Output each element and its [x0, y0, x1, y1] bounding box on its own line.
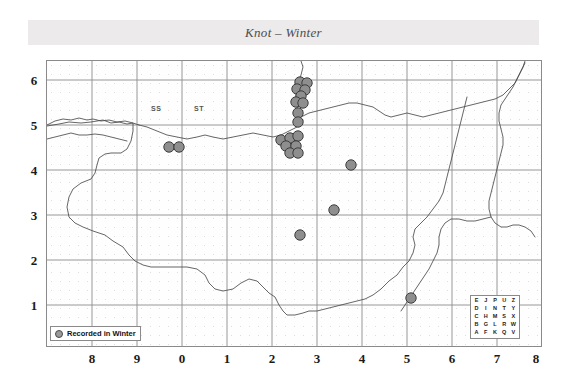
key-letter: M	[490, 313, 499, 321]
y-axis-tick-6: 6	[26, 73, 42, 89]
key-letter: X	[509, 313, 518, 321]
x-axis-tick-1: 9	[129, 351, 145, 367]
record-dot	[298, 98, 308, 108]
key-letter: Q	[500, 329, 509, 337]
record-dot	[329, 205, 339, 215]
grid-square-label-st: ST	[194, 105, 204, 112]
key-letter: D	[472, 305, 481, 313]
title-bar: Knot – Winter	[28, 20, 539, 45]
x-axis-tick-8: 6	[444, 351, 460, 367]
record-dot	[295, 230, 305, 240]
map-canvas	[47, 61, 542, 347]
key-letter: C	[472, 313, 481, 321]
key-letter: N	[490, 305, 499, 313]
key-letter: W	[509, 321, 518, 329]
key-letter: E	[472, 297, 481, 305]
key-letter: K	[490, 329, 499, 337]
key-letter: H	[481, 313, 490, 321]
key-letter: G	[481, 321, 490, 329]
key-letter: V	[509, 329, 518, 337]
key-letter: L	[490, 321, 499, 329]
key-letter: B	[472, 321, 481, 329]
key-letter: U	[500, 297, 509, 305]
x-axis-tick-10: 8	[528, 351, 544, 367]
x-axis-tick-0: 8	[84, 351, 100, 367]
key-letter: I	[481, 305, 490, 313]
map-legend: Recorded in Winter	[50, 326, 141, 341]
key-letter: T	[500, 305, 509, 313]
grid-square-label-ss: SS	[151, 105, 161, 112]
x-axis-tick-5: 3	[309, 351, 325, 367]
map-page: Knot – Winter 6 5 4 3 2 1 8 9 0 1 2 3 4 …	[0, 0, 567, 386]
record-dot	[164, 142, 174, 152]
y-axis-tick-3: 3	[26, 208, 42, 224]
record-dot	[174, 142, 184, 152]
y-axis-tick-4: 4	[26, 163, 42, 179]
key-letter: Z	[509, 297, 518, 305]
distribution-map[interactable]: SS ST Recorded in Winter E J P U Z D I N…	[46, 60, 542, 347]
y-axis-tick-2: 2	[26, 253, 42, 269]
x-axis-tick-6: 4	[354, 351, 370, 367]
record-dot	[293, 148, 303, 158]
key-letter: R	[500, 321, 509, 329]
x-axis-tick-3: 1	[219, 351, 235, 367]
record-dot	[406, 293, 416, 303]
key-letter: F	[481, 329, 490, 337]
filled-circle-icon	[55, 330, 63, 338]
record-dot	[346, 160, 356, 170]
key-letter: J	[481, 297, 490, 305]
key-letter: S	[500, 313, 509, 321]
grid-letter-key: E J P U Z D I N T Y C H M S X B G L R W …	[470, 295, 520, 339]
record-dot	[293, 131, 303, 141]
page-title: Knot – Winter	[28, 20, 539, 45]
x-axis-tick-7: 5	[399, 351, 415, 367]
key-letter: A	[472, 329, 481, 337]
x-axis-tick-9: 7	[489, 351, 505, 367]
key-letter: P	[490, 297, 499, 305]
y-axis-tick-5: 5	[26, 118, 42, 134]
record-dot	[293, 117, 303, 127]
x-axis-tick-2: 0	[174, 351, 190, 367]
legend-label: Recorded in Winter	[67, 329, 136, 338]
x-axis-tick-4: 2	[264, 351, 280, 367]
key-letter: Y	[509, 305, 518, 313]
y-axis-tick-1: 1	[26, 298, 42, 314]
